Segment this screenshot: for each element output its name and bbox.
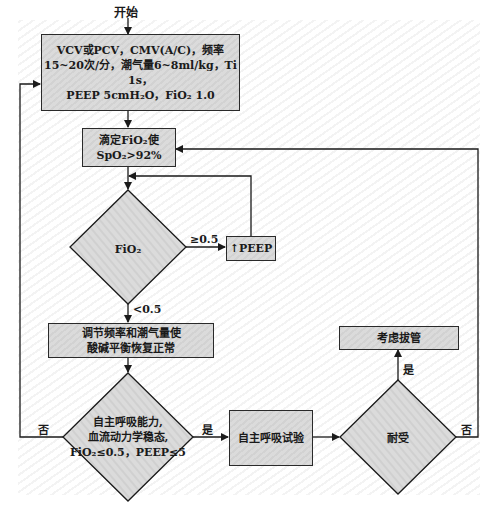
- initial-ventilation-settings-box: VCV或PCV，CMV(A/C)，频率 15~20次/分，潮气量6~8ml/kg…: [41, 34, 240, 111]
- extubate-label: 考虑拔管: [377, 331, 421, 346]
- sbt-label: 自主呼吸试验: [238, 431, 304, 446]
- initial-settings-line3: PEEP 5cmH₂O，FiO₂ 1.0: [66, 88, 214, 103]
- readiness-line3: FiO₂≤0.5，PEEP≤5: [70, 445, 186, 460]
- decision-tolerance-label: 耐受: [387, 431, 409, 446]
- spontaneous-breathing-trial-box: 自主呼吸试验: [229, 410, 313, 466]
- fio2-low-branch-label: <0.5: [133, 303, 161, 316]
- readiness-line1: 自主呼吸能力,: [70, 415, 186, 430]
- titrate-fio2-box: 滴定FiO₂使 SpO₂>92%: [82, 128, 176, 167]
- initial-settings-line2: 15~20次/分，潮气量6~8ml/kg，Ti 1s，: [42, 58, 239, 88]
- tolerance-yes-label: 是: [403, 361, 414, 377]
- readiness-line2: 血流动力学稳态,: [70, 430, 186, 445]
- adjust-line1: 调节频率和潮气量使: [82, 326, 181, 341]
- readiness-no-label: 否: [38, 421, 49, 437]
- consider-extubation-box: 考虑拔管: [339, 326, 459, 350]
- increase-peep-box: ↑PEEP: [226, 236, 276, 261]
- decision-fio2-label: FiO₂: [115, 242, 141, 257]
- adjust-line2: 酸碱平衡恢复正常: [87, 341, 175, 356]
- tolerance-no-label: 否: [461, 421, 472, 437]
- start-label: 开始: [114, 3, 138, 20]
- decision-readiness-text: 自主呼吸能力, 血流动力学稳态, FiO₂≤0.5，PEEP≤5: [70, 415, 186, 460]
- titrate-line2: SpO₂>92%: [96, 148, 161, 163]
- adjust-rate-volume-box: 调节频率和潮气量使 酸碱平衡恢复正常: [48, 323, 214, 358]
- readiness-yes-label: 是: [202, 421, 213, 437]
- initial-settings-line1: VCV或PCV，CMV(A/C)，频率: [57, 43, 225, 58]
- increase-peep-label: ↑PEEP: [230, 241, 273, 256]
- titrate-line1: 滴定FiO₂使: [99, 133, 158, 148]
- fio2-high-branch-label: ≥0.5: [190, 233, 218, 246]
